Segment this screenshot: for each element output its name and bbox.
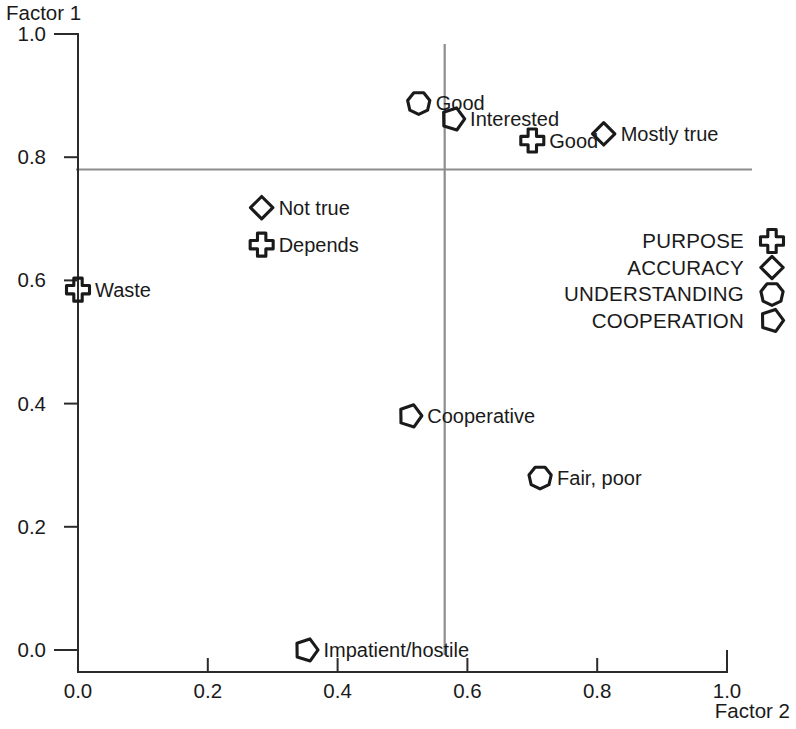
y-axis-ticks — [64, 157, 78, 527]
y-tick-label: 0.0 — [18, 638, 47, 661]
data-point: Not true — [250, 197, 349, 219]
y-axis-tick-labels: 0.00.20.40.60.81.0 — [18, 22, 47, 661]
data-point-label: Impatient/hostile — [323, 639, 469, 661]
data-point-label: Good — [549, 130, 598, 152]
cross-marker-icon — [250, 233, 273, 256]
data-point-label: Cooperative — [427, 405, 535, 427]
x-tick-label: 0.2 — [194, 679, 223, 702]
x-tick-label: 0.4 — [323, 679, 352, 702]
pentagon-marker-icon — [401, 405, 422, 427]
cross-marker-icon — [521, 129, 544, 152]
y-tick-label: 1.0 — [18, 22, 47, 45]
hexagon-marker-icon — [408, 93, 430, 115]
legend-item: ACCURACY — [627, 256, 783, 279]
data-point-group: GoodInterestedGoodMostly trueNot trueDep… — [67, 92, 719, 661]
y-tick-label: 0.4 — [18, 392, 47, 415]
data-point: Depends — [250, 233, 359, 256]
legend-item: PURPOSE — [642, 229, 783, 253]
legend-item-label: PURPOSE — [642, 229, 744, 252]
data-point: Waste — [67, 278, 151, 301]
data-point: Cooperative — [401, 405, 535, 427]
x-tick-label: 0.0 — [64, 679, 93, 702]
y-tick-label: 0.6 — [18, 268, 47, 291]
diamond-marker-icon — [761, 256, 783, 278]
y-tick-label: 0.2 — [18, 515, 47, 538]
legend-item: COOPERATION — [592, 309, 784, 332]
diamond-marker-icon — [250, 197, 272, 219]
data-point-label: Mostly true — [621, 123, 719, 145]
plot-canvas: 0.00.20.40.60.81.0 0.00.20.40.60.81.0 Go… — [0, 0, 796, 729]
data-point-label: Waste — [95, 279, 151, 301]
legend-item-label: ACCURACY — [627, 256, 744, 279]
x-axis-title: Factor 2 — [715, 699, 790, 722]
data-point-label: Interested — [470, 108, 559, 130]
data-point: Interested — [444, 108, 559, 130]
data-point: Mostly true — [592, 123, 718, 145]
data-point-label: Depends — [279, 234, 359, 256]
pentagon-marker-icon — [297, 639, 318, 661]
legend-item-label: UNDERSTANDING — [564, 282, 744, 305]
chart-legend: PURPOSEACCURACYUNDERSTANDINGCOOPERATION — [564, 229, 784, 332]
cross-marker-icon — [761, 230, 784, 253]
y-tick-label: 0.8 — [18, 145, 47, 168]
data-point: Good — [521, 129, 598, 152]
y-axis-line — [54, 34, 78, 650]
data-point: Fair, poor — [529, 467, 642, 489]
data-point-label: Fair, poor — [557, 467, 642, 489]
x-axis-tick-labels: 0.00.20.40.60.81.0 — [64, 679, 742, 702]
data-point: Impatient/hostile — [297, 639, 469, 661]
legend-item: UNDERSTANDING — [564, 282, 783, 305]
factor-scatter-plot: 0.00.20.40.60.81.0 0.00.20.40.60.81.0 Go… — [0, 0, 796, 729]
x-tick-label: 0.6 — [453, 679, 482, 702]
hexagon-marker-icon — [529, 467, 551, 489]
y-axis-title: Factor 1 — [6, 1, 81, 24]
data-point-label: Not true — [279, 197, 350, 219]
hexagon-marker-icon — [761, 284, 783, 306]
legend-item-label: COOPERATION — [592, 309, 744, 332]
x-tick-label: 0.8 — [583, 679, 612, 702]
pentagon-marker-icon — [763, 309, 784, 331]
